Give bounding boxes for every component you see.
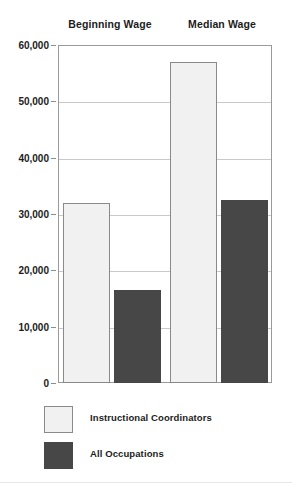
chart-legend: Instructional Coordinators All Occupatio… (44, 404, 274, 476)
y-tick-mark (51, 101, 56, 102)
y-tick-mark (51, 327, 56, 328)
legend-item: Instructional Coordinators (44, 404, 274, 440)
legend-label-instructional-coordinators: Instructional Coordinators (90, 412, 212, 423)
y-tick-mark (51, 214, 56, 215)
chart-group-headers: Beginning Wage Median Wage (58, 18, 272, 36)
legend-label-all-occupations: All Occupations (90, 448, 164, 459)
y-tick-label: 40,000 (18, 152, 49, 163)
wage-comparison-chart: Beginning Wage Median Wage 60,000 50,000… (0, 0, 292, 484)
y-tick-mark (51, 45, 56, 46)
y-tick-label: 30,000 (18, 209, 49, 220)
legend-item: All Occupations (44, 440, 274, 476)
y-tick-mark (51, 158, 56, 159)
bars-layer (58, 45, 272, 383)
group-header-median-wage: Median Wage (166, 18, 278, 30)
y-tick-label: 20,000 (18, 265, 49, 276)
y-tick-label: 50,000 (18, 96, 49, 107)
bar-instructional-coordinators-median-wage (170, 62, 217, 383)
bar-all-occupations-beginning-wage (114, 290, 161, 383)
bar-all-occupations-median-wage (221, 200, 268, 383)
bottom-divider (0, 482, 292, 483)
bar-instructional-coordinators-beginning-wage (63, 203, 110, 383)
y-tick-mark (51, 383, 56, 384)
y-tick-mark (51, 270, 56, 271)
legend-swatch-all-occupations (44, 442, 73, 469)
y-axis: 60,000 50,000 40,000 30,000 20,000 10,00… (0, 45, 56, 383)
y-tick-label: 0 (43, 378, 49, 389)
group-header-beginning-wage: Beginning Wage (54, 18, 166, 30)
y-tick-label: 60,000 (18, 40, 49, 51)
legend-swatch-instructional-coordinators (44, 406, 73, 433)
y-tick-label: 10,000 (18, 321, 49, 332)
